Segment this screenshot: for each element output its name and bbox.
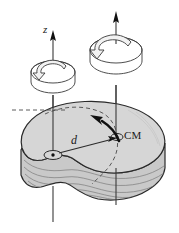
center-of-mass-label: CM [124,130,142,141]
pivot-dot-icon [51,153,54,156]
pivot-point-marker [44,151,62,160]
figure-container: z d CM [0,0,179,233]
right-rotation-symbol [90,35,142,74]
parallel-axis-theorem-diagram [0,0,179,233]
axis-label-z: z [43,24,47,35]
left-rotation-symbol [31,60,75,93]
left-axis-arrow [50,30,56,62]
distance-label-d: d [71,134,77,146]
